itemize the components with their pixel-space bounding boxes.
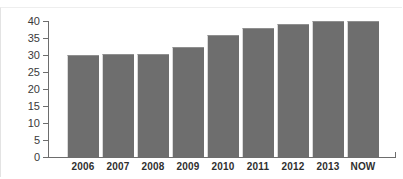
y-axis-tick-label-text: 5 [16,135,40,146]
y-axis-tick-label: 30 [12,50,40,61]
bar [172,47,204,157]
bar [207,35,239,157]
bar [312,21,344,157]
bar [242,28,274,157]
y-axis-tick-label: 40 [12,16,40,27]
y-axis-tick-label: 5 [12,135,40,146]
y-axis-tick-label: 10 [12,118,40,129]
y-axis-tick-label-text: 15 [16,101,40,112]
y-axis-tick [43,106,49,107]
y-axis-tick-label-text: 35 [16,33,40,44]
y-axis-tick [43,89,49,90]
bar [137,54,169,157]
y-axis-tick-label-text: 10 [16,118,40,129]
bar [347,21,379,157]
x-axis-tick-label: 2012 [277,161,309,173]
y-axis-tick-label-text: 20 [16,84,40,95]
y-axis-tick-label-text: 30 [16,50,40,61]
y-axis-tick [43,72,49,73]
y-axis-tick [43,38,49,39]
y-axis-tick [43,55,49,56]
y-axis-tick-label: 0 [12,152,40,163]
y-axis-tick [43,140,49,141]
x-axis-tick-label: 2010 [207,161,239,173]
y-axis-tick [43,157,49,158]
y-axis-tick [43,21,49,22]
bar [102,54,134,157]
y-axis-tick-label: 25 [12,67,40,78]
bar [277,24,309,157]
x-axis-tick-label: 2009 [172,161,204,173]
y-axis-tick [43,123,49,124]
chart-screenshot: 4035302520151050 20062007200820092010201… [0,0,403,179]
x-axis-end-tick [395,152,396,158]
x-axis-tick-label: 2008 [137,161,169,173]
x-axis-tick-label: 2011 [242,161,274,173]
y-axis-tick-label: 35 [12,33,40,44]
bar [67,55,99,157]
bar-chart-plot: 4035302520151050 20062007200820092010201… [0,0,403,179]
x-axis-tick-label: 2013 [312,161,344,173]
x-axis-line [48,157,396,158]
x-axis-tick-label: 2006 [67,161,99,173]
y-axis-tick-label-text: 25 [16,67,40,78]
y-axis-tick-label-text: 40 [16,16,40,27]
x-axis-tick-label: 2007 [102,161,134,173]
y-axis-tick-label: 20 [12,84,40,95]
y-axis-tick-label: 15 [12,101,40,112]
x-axis-tick-label: NOW [347,161,379,173]
y-axis-tick-label-text: 0 [16,152,40,163]
